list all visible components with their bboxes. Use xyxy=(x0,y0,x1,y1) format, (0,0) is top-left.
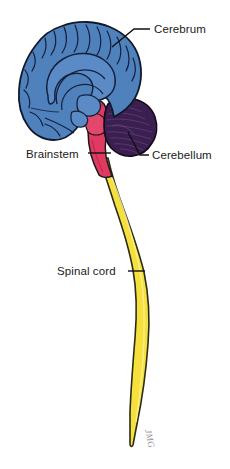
spinal-cord-shape xyxy=(100,158,149,446)
anatomy-diagram-page: Cerebrum Brainstem Cerebellum Spinal cor… xyxy=(0,0,230,469)
artist-signature: JMG xyxy=(143,428,157,449)
label-brainstem: Brainstem xyxy=(26,148,79,160)
label-cerebellum: Cerebellum xyxy=(152,149,212,161)
brain-spinal-cord-figure: Cerebrum Brainstem Cerebellum Spinal cor… xyxy=(0,0,230,469)
label-spinal-cord: Spinal cord xyxy=(57,265,116,277)
label-cerebrum: Cerebrum xyxy=(154,23,206,35)
spinal-cord-structure xyxy=(100,158,149,446)
